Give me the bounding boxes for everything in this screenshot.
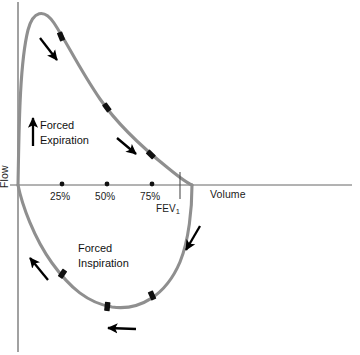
fev1-label: FEV1 [156,203,180,214]
forced-inspiration-label-line2: Inspiration [78,256,129,271]
forced-expiration-curve [18,13,192,185]
forced-expiration-label-line2: Expiration [40,133,89,148]
expiration-arrow-upper-icon [40,38,57,60]
flow-volume-loop-figure: Flow Volume 25% 50% 75% FEV1 Forced Expi… [0,0,360,355]
forced-inspiration-label: Forced Inspiration [78,241,129,270]
inspiration-arrow-bottom-icon [108,328,136,329]
forced-inspiration-label-line1: Forced [78,241,129,256]
flow-volume-loop-chart [0,0,360,355]
tick-dot-25 [60,182,65,187]
tick-dot-75 [150,182,155,187]
y-axis-label: Flow [0,165,10,188]
tick-label-75: 75% [140,191,160,202]
tick-dot-50 [105,182,110,187]
fev1-label-subscript: 1 [176,207,180,216]
forced-expiration-label-line1: Forced [40,118,89,133]
forced-expiration-label: Forced Expiration [40,118,89,147]
expiration-arrow-lower-icon [117,138,136,154]
x-axis-label: Volume [210,188,246,200]
curve-marker [104,302,110,312]
fev1-label-text: FEV [156,203,176,214]
curve-marker [57,31,65,41]
inspiration-arrow-left-icon [30,258,48,280]
tick-label-50: 50% [95,191,115,202]
tick-label-25: 25% [50,191,70,202]
